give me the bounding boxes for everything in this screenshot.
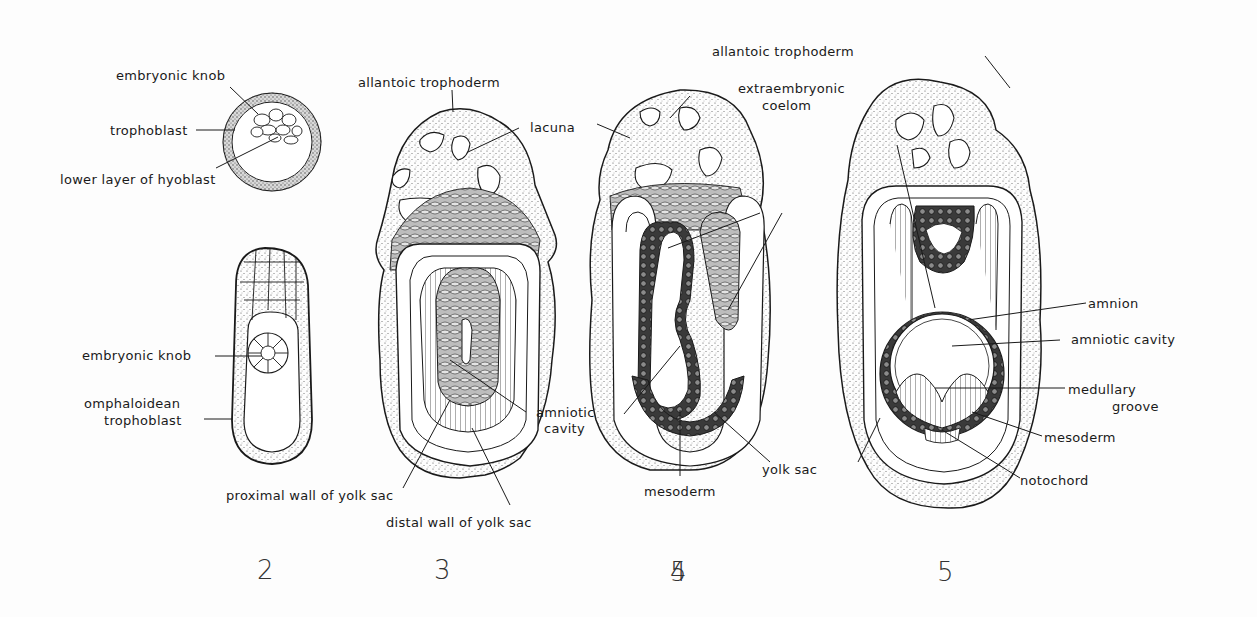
figure-drawing [0,0,1257,617]
label-embryonic-knob-2: embryonic knob [82,348,191,363]
label-amnion: amnion [1088,296,1138,311]
figure-number-4-display: 4 [670,557,687,587]
label-medullary-groove: groove [1112,399,1159,414]
label-trophoblast: trophoblast [110,123,188,138]
label-lacuna: lacuna [530,120,575,135]
panel-4-drawing [590,90,782,476]
label-amniotic: amniotic [536,405,595,420]
label-lower-layer-of-hyoblast: lower layer of hyoblast [60,172,216,187]
label-amniotic-cavity-3: cavity [544,421,585,436]
embryology-figure: embryonic knob trophoblast lower layer o… [0,0,1257,617]
label-distal-wall-of-yolk-sac: distal wall of yolk sac [386,515,532,530]
figure-number-5: 5 [937,557,954,587]
label-allantoic-trophoderm-4: allantoic trophoderm [712,44,854,59]
label-allantoic-trophoderm-3: allantoic trophoderm [358,75,500,90]
label-proximal-wall-of-yolk-sac: proximal wall of yolk sac [226,488,393,503]
figure-number-2: 2 [257,555,274,585]
panel-2-drawing [196,87,321,464]
figure-number-3: 3 [434,555,451,585]
label-medullary: medullary [1068,382,1136,397]
label-embryonic-knob: embryonic knob [116,68,225,83]
label-mesoderm-4: mesoderm [644,484,716,499]
label-omphaloidean-trophoblast: trophoblast [104,413,182,428]
label-mesoderm-5: mesoderm [1044,430,1116,445]
label-notochord: notochord [1020,473,1089,488]
panel-3-drawing [376,46,556,505]
label-yolk-sac: yolk sac [762,462,817,477]
label-omphaloidean: omphaloidean [84,396,180,411]
label-amniotic-cavity-5: amniotic cavity [1071,332,1175,347]
label-extraembryonic: extraembryonic [738,81,845,96]
label-extraembryonic-coelom: coelom [762,98,811,113]
